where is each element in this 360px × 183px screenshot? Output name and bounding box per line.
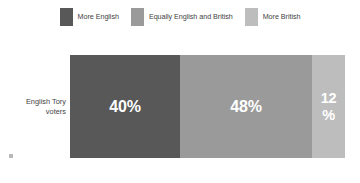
legend-item-equally-english-and-british: Equally English and British (131, 8, 233, 26)
legend-label-more-english: More English (78, 13, 119, 20)
category-label-line-2: voters (46, 107, 66, 117)
bar-segment-more-british: 12 % (312, 55, 345, 158)
category-label-line-1: English Tory (26, 97, 66, 107)
legend-swatch-more-british (245, 8, 258, 26)
legend-label-more-british: More British (263, 13, 301, 20)
legend-swatch-more-english (60, 8, 73, 26)
bar-segment-value-more-british: 12 % (321, 90, 337, 124)
legend-label-equally-english-and-british: Equally English and British (149, 13, 233, 20)
bar-segment-value-equally-english-and-british: 48% (230, 98, 261, 115)
bar-segment-value-more-british-line-1: 12 (321, 90, 337, 107)
chart-legend: More English Equally English and British… (0, 6, 360, 28)
bar-segment-value-more-english: 40% (109, 98, 140, 115)
legend-item-more-english: More English (60, 8, 119, 26)
chart-plot-area: English Tory voters 40% 48% 12 % (0, 55, 360, 158)
bar-segment-value-more-british-line-2: % (321, 107, 337, 124)
bar-segment-more-english: 40% (70, 55, 180, 158)
stray-mark-artifact (9, 154, 13, 158)
bar-segment-equally-english-and-british: 48% (180, 55, 312, 158)
category-label-english-tory-voters: English Tory voters (6, 55, 66, 158)
legend-swatch-equally-english-and-british (131, 8, 144, 26)
stacked-bar: 40% 48% 12 % (70, 55, 345, 158)
legend-item-more-british: More British (245, 8, 301, 26)
